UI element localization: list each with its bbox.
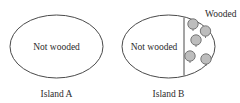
island-b-caption: Island B [153, 89, 185, 99]
island-b-wooded-label: Wooded [205, 9, 237, 19]
island-a-group: Not wooded Island A [10, 15, 103, 99]
island-b-group: Not wooded [122, 9, 237, 99]
figure-canvas: Not wooded Island A Not wooded [0, 0, 240, 103]
island-a-caption: Island A [41, 89, 73, 99]
island-comparison-figure: Not wooded Island A Not wooded [0, 0, 240, 103]
island-a-not-wooded-label: Not wooded [33, 42, 80, 52]
island-b-not-wooded-label: Not wooded [131, 42, 178, 52]
